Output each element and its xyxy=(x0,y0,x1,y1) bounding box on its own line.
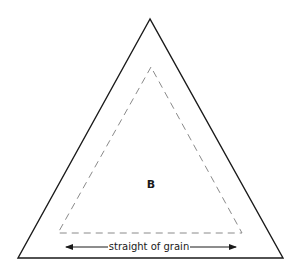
outer-cutting-line xyxy=(18,19,283,258)
piece-label: B xyxy=(147,178,155,191)
inner-seam-line xyxy=(58,67,242,233)
triangle-template-diagram: B straight of grain xyxy=(0,0,292,274)
grain-label: straight of grain xyxy=(109,241,189,252)
